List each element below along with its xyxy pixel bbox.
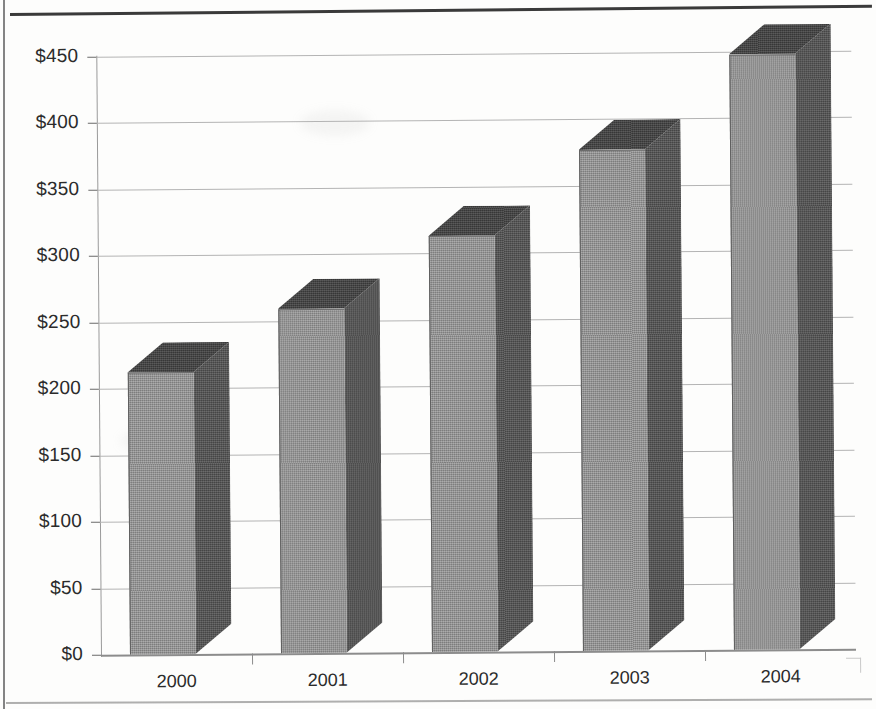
y-axis-tick (89, 322, 98, 323)
y-axis-tick (92, 655, 101, 656)
y-axis-tick-label: $300 (0, 244, 80, 267)
y-axis-tick (88, 123, 97, 124)
bar-2000 (127, 342, 231, 655)
bar-2001 (278, 278, 383, 653)
y-axis-tick-label: $100 (0, 510, 82, 533)
x-axis-tick (403, 652, 404, 663)
bar-front-face (278, 309, 347, 654)
x-axis-tick (554, 651, 555, 662)
plot-frame-corner-right (846, 658, 861, 673)
bar-side-face (344, 278, 383, 652)
bar-front-face (729, 54, 800, 650)
y-axis-tick (91, 522, 100, 523)
y-axis-tick-label: $450 (0, 45, 78, 68)
plot-area: $0$50$100$150$200$250$300$350$400$450 20… (0, 0, 876, 709)
bar-2004 (729, 24, 836, 650)
bar-side-face (193, 342, 231, 654)
x-axis-category-label: 2001 (252, 669, 403, 691)
y-axis-tick-label: $50 (0, 576, 83, 599)
bar-side-face (795, 24, 836, 650)
y-axis-tick (88, 190, 97, 191)
y-axis-tick-label: $400 (0, 111, 79, 134)
chart-page: $0$50$100$150$200$250$300$350$400$450 20… (0, 0, 876, 709)
x-axis-category-label: 2000 (101, 670, 252, 692)
y-axis-tick (87, 57, 96, 58)
y-axis-tick-label: $150 (0, 443, 82, 466)
bar-2002 (428, 205, 533, 652)
bar-front-face (579, 149, 649, 650)
bar-side-face (644, 119, 684, 650)
y-axis-tick-label: $250 (0, 311, 80, 334)
bar-chart: $0$50$100$150$200$250$300$350$400$450 20… (0, 0, 876, 709)
x-axis-category-label: 2003 (554, 667, 705, 689)
y-axis-tick (90, 389, 99, 390)
x-axis-tick (252, 653, 253, 664)
bar-front-face (428, 236, 497, 652)
y-axis-tick (91, 588, 100, 589)
y-axis-line (96, 56, 102, 657)
y-axis-tick-label: $200 (0, 377, 81, 400)
x-axis-category-label: 2004 (705, 666, 856, 688)
bar-side-face (494, 205, 534, 651)
y-axis-tick-label: $350 (0, 178, 79, 201)
y-axis-tick-label: $0 (0, 643, 83, 666)
bar-front-face (127, 372, 195, 654)
y-axis-tick (90, 455, 99, 456)
x-axis-tick (705, 650, 706, 661)
x-axis-category-label: 2002 (403, 668, 554, 690)
bar-2003 (578, 119, 684, 651)
y-axis-tick (89, 256, 98, 257)
